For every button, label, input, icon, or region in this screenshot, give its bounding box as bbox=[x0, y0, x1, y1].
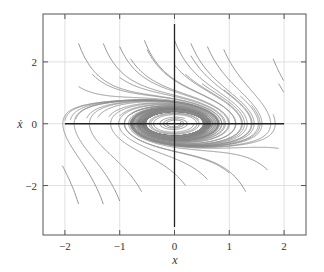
trajectory bbox=[279, 84, 284, 93]
trajectories bbox=[62, 40, 283, 204]
y-tick-label: 2 bbox=[32, 56, 38, 68]
x-tick-label: −2 bbox=[59, 240, 71, 252]
y-tick-label: 0 bbox=[32, 118, 38, 130]
x-tick-labels: −2−1012 bbox=[59, 240, 287, 252]
x-tick-label: 0 bbox=[172, 240, 178, 252]
x-axis-label: x bbox=[171, 253, 178, 267]
x-tick-label: −1 bbox=[114, 240, 126, 252]
y-tick-label: −2 bbox=[25, 180, 37, 192]
phase-portrait-chart: −2−1012 −202 x ẋ bbox=[0, 0, 324, 272]
x-tick-label: 1 bbox=[227, 240, 233, 252]
y-tick-labels: −202 bbox=[25, 56, 37, 192]
x-tick-label: 2 bbox=[281, 240, 287, 252]
y-axis-label: ẋ bbox=[16, 117, 23, 131]
